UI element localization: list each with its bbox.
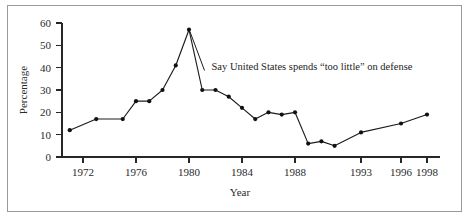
data-point	[293, 110, 297, 114]
data-line	[70, 30, 427, 146]
y-axis-title: Percentage	[17, 66, 29, 114]
y-tick-label: 60	[40, 17, 52, 29]
y-tick-label: 30	[40, 84, 52, 96]
data-point	[266, 110, 270, 114]
y-tick-label: 50	[40, 39, 52, 51]
data-point	[174, 63, 178, 67]
data-point	[121, 117, 125, 121]
series-group	[68, 28, 429, 148]
y-tick-labels: 60 50 40 30 20 10 0	[40, 17, 52, 163]
data-point	[319, 139, 323, 143]
x-tick-label: 1980	[178, 166, 201, 178]
data-point	[160, 88, 164, 92]
x-tick-label: 1996	[390, 166, 413, 178]
x-tick-label: 1993	[350, 166, 373, 178]
data-point	[94, 117, 98, 121]
y-tick-label: 10	[40, 129, 52, 141]
data-point	[359, 130, 363, 134]
x-tick-labels: 1972 1976 1980 1984 1988 1993 1996 1998	[72, 166, 439, 178]
chart-screenshot: 60 50 40 30 20 10 0 Percentage	[0, 0, 470, 221]
data-point	[134, 99, 138, 103]
y-ticks	[56, 23, 62, 157]
data-point	[68, 128, 72, 132]
data-point	[280, 112, 284, 116]
y-axis-group: 60 50 40 30 20 10 0 Percentage	[17, 17, 62, 163]
x-ticks	[83, 157, 427, 163]
data-point	[399, 121, 403, 125]
x-tick-label: 1998	[416, 166, 439, 178]
annotation-group: Say United States spends “too little” on…	[190, 32, 413, 72]
annotation-label: Say United States spends “too little” on…	[212, 61, 413, 72]
x-tick-label: 1972	[72, 166, 94, 178]
x-axis-title: Year	[230, 186, 251, 198]
data-point	[306, 142, 310, 146]
x-axis-group: 1972 1976 1980 1984 1988 1993 1996 1998 …	[62, 157, 440, 198]
data-point	[213, 88, 217, 92]
x-tick-label: 1984	[231, 166, 254, 178]
data-point	[425, 112, 429, 116]
x-tick-label: 1988	[284, 166, 307, 178]
line-chart: 60 50 40 30 20 10 0 Percentage	[0, 0, 470, 221]
y-tick-label: 0	[46, 151, 52, 163]
y-tick-label: 40	[40, 62, 52, 74]
data-point	[333, 144, 337, 148]
data-point	[253, 117, 257, 121]
data-point	[200, 88, 204, 92]
data-point	[227, 95, 231, 99]
data-point	[187, 28, 191, 32]
x-tick-label: 1976	[125, 166, 148, 178]
data-point	[240, 106, 244, 110]
y-tick-label: 20	[40, 106, 52, 118]
data-point	[147, 99, 151, 103]
